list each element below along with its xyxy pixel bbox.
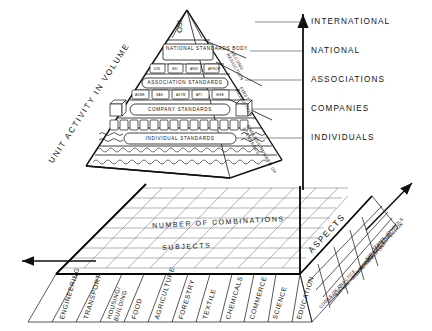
level-label-international: INTERNATIONAL [311, 17, 390, 26]
pyramid-level-national-standards-body: NATIONAL STANDARDS BODY [166, 46, 212, 51]
company-units-row [110, 120, 248, 130]
level-label-associations: ASSOCIATIONS [311, 75, 385, 84]
level-label-individuals: INDIVIDUALS [311, 133, 375, 142]
base-grid [62, 188, 348, 268]
pyramid-apex-label: ISO [175, 20, 184, 33]
member-body-label-3: AFNOR [208, 67, 220, 71]
pyramid-level-company-standards: COMPANY STANDARDS [134, 107, 226, 112]
association-tag-label-1: SAE [156, 93, 163, 97]
diagram-canvas: INTERNATIONAL NATIONAL ASSOCIATIONS COMP… [0, 0, 432, 331]
association-tag-label-0: ASME [135, 93, 145, 97]
pyramid-level-individual-standards: INDIVIDUAL STANDARDS [128, 136, 232, 141]
aspects-axis-arrow [366, 183, 412, 230]
aspects-panel [300, 196, 398, 322]
pyramid-level-association-standards: ASSOCIATION STANDARDS [146, 80, 224, 85]
level-label-national: NATIONAL [311, 46, 360, 55]
association-tag-label-3: API [196, 93, 202, 97]
member-body-label-0: DIN [154, 67, 160, 71]
association-tag-label-2: ASTM [176, 93, 186, 97]
level-label-companies: COMPANIES [311, 104, 369, 113]
association-tag-label-4: IEEE [216, 93, 224, 97]
individual-units-row [93, 148, 267, 164]
member-body-label-1: BSI [172, 67, 178, 71]
company-cube-left [110, 100, 126, 116]
member-body-label-2: ANSI [190, 67, 198, 71]
